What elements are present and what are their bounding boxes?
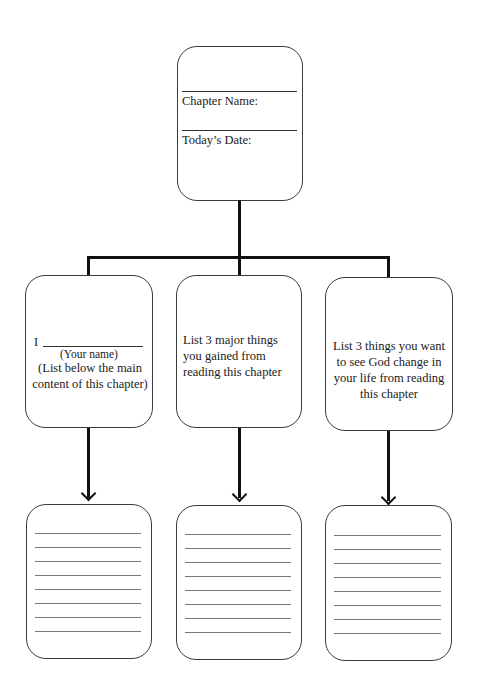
chapter-info-box — [177, 46, 303, 201]
arrow-down-icon — [231, 487, 247, 503]
gained-instruction: List 3 major things you gained from read… — [183, 332, 299, 380]
drop-connector-right — [387, 256, 390, 278]
chapter-name-label: Chapter Name: — [182, 93, 258, 109]
gained-answer-box[interactable] — [176, 505, 302, 660]
arrow-down-icon — [380, 490, 396, 506]
arrow-down-icon — [80, 486, 96, 502]
stem-connector — [238, 200, 241, 258]
main-content-instruction: (List below the main content of this cha… — [30, 360, 150, 392]
main-content-answer-box[interactable] — [26, 504, 152, 659]
date-label: Today’s Date: — [182, 132, 252, 148]
drop-connector-middle — [238, 256, 241, 276]
your-name-line[interactable] — [43, 346, 143, 347]
change-instruction: List 3 things you want to see God change… — [327, 338, 451, 402]
change-answer-box[interactable] — [325, 505, 452, 661]
drop-connector-left — [87, 256, 90, 276]
